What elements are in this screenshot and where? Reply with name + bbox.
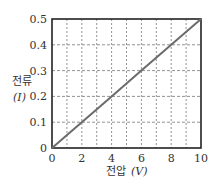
y-tick-label: 0.4 (30, 39, 48, 52)
x-tick-label: 2 (78, 152, 85, 165)
x-tick-label: 0 (49, 152, 56, 165)
x-tick-label: 8 (168, 152, 175, 165)
chart: 0246810 00.10.20.30.40.5 전류 (I) 전압 (V) (0, 0, 219, 189)
y-tick-label: 0.5 (30, 13, 48, 26)
x-tick-label: 10 (194, 152, 208, 165)
x-axis-label: 전압 (106, 165, 126, 178)
x-tick-label: 6 (138, 152, 145, 165)
x-axis-ticks: 0246810 (49, 152, 209, 165)
y-tick-label: 0.3 (30, 65, 48, 78)
x-axis-unit: (V) (131, 165, 148, 178)
y-axis-label: 전류 (12, 75, 32, 88)
y-tick-label: 0.1 (30, 116, 48, 129)
y-tick-label: 0 (40, 142, 47, 155)
y-axis-ticks: 00.10.20.30.40.5 (30, 13, 48, 155)
x-tick-label: 4 (108, 152, 115, 165)
y-axis-unit: (I) (13, 91, 26, 104)
y-tick-label: 0.2 (30, 90, 48, 103)
